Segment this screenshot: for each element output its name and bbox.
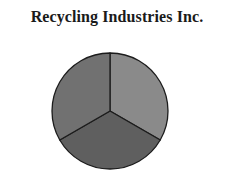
pie-slices bbox=[52, 53, 168, 169]
pie-chart bbox=[0, 0, 234, 195]
